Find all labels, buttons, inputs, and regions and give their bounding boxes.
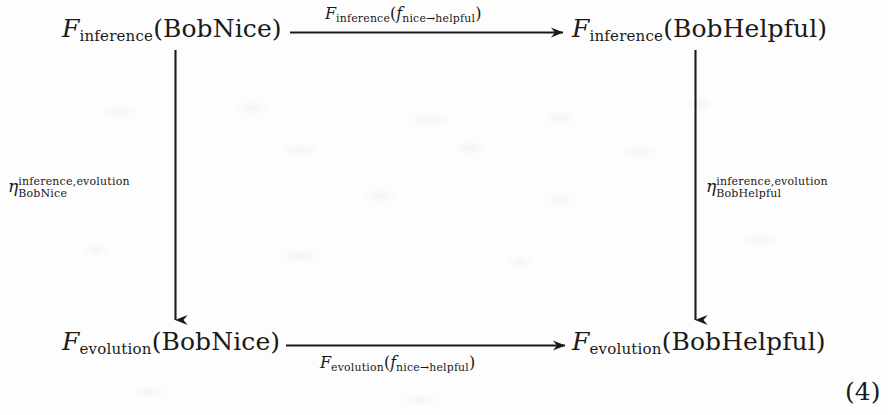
node-bottom-right: Fevolution(BobHelpful) <box>572 329 826 357</box>
arrow-top-label-functor: F <box>325 4 336 23</box>
eta-right-subscript: BobHelpful <box>716 188 828 200</box>
arrow-bottom-label-functor-subscript: evolution <box>331 361 384 374</box>
arrow-bottom-label: Fevolution(fnice→helpful) <box>320 355 475 374</box>
commutative-diagram-figure: Finference(BobNice) Finference(BobHelpfu… <box>0 0 888 415</box>
arrow-top-label-map-subscript: nice→helpful <box>402 12 475 25</box>
node-bottom-left: Fevolution(BobNice) <box>62 329 280 357</box>
arrow-bottom-label-close-paren: ) <box>469 353 475 372</box>
node-top-left-functor: F <box>62 14 79 43</box>
node-bottom-left-functor: F <box>62 327 79 356</box>
arrow-bottom-label-map-subscript: nice→helpful <box>396 361 469 374</box>
equation-number: (4) <box>845 379 880 404</box>
arrow-right-label-eta: η inference,evolution BobHelpful <box>706 176 828 201</box>
node-top-left-functor-subscript: inference <box>79 27 153 45</box>
arrow-bottom-label-functor: F <box>320 353 331 372</box>
arrow-top-label-close-paren: ) <box>475 4 481 23</box>
node-bottom-left-argument: (BobNice) <box>152 327 281 356</box>
arrow-top-label-functor-subscript: inference <box>336 12 390 25</box>
node-bottom-left-functor-subscript: evolution <box>79 340 151 358</box>
node-top-left-argument: (BobNice) <box>153 14 282 43</box>
arrow-left-label-eta: η inference,evolution BobNice <box>8 176 130 201</box>
node-top-right-argument: (BobHelpful) <box>663 14 827 43</box>
arrow-top-label: Finference(fnice→helpful) <box>325 6 481 25</box>
node-top-right-functor-subscript: inference <box>589 27 663 45</box>
node-bottom-right-functor: F <box>572 327 589 356</box>
eta-left-subscript: BobNice <box>18 188 130 200</box>
node-bottom-right-functor-subscript: evolution <box>589 340 661 358</box>
eta-glyph-right: η <box>706 176 716 196</box>
node-bottom-right-argument: (BobHelpful) <box>662 327 826 356</box>
node-top-left: Finference(BobNice) <box>62 16 282 44</box>
node-top-right: Finference(BobHelpful) <box>572 16 827 44</box>
eta-glyph-left: η <box>8 176 18 196</box>
node-top-right-functor: F <box>572 14 589 43</box>
